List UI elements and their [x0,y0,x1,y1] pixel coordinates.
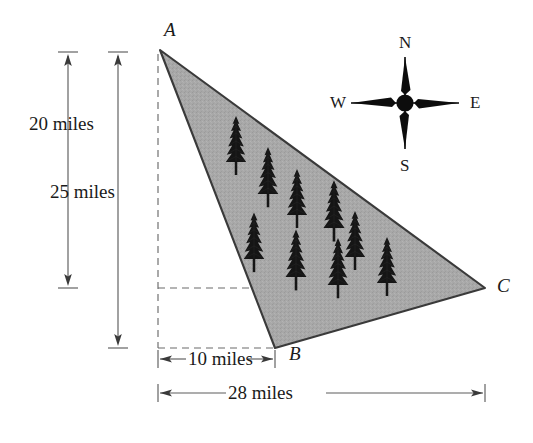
dimension-28-miles [158,384,485,402]
vertex-label-b: B [289,344,301,363]
vertex-label-a: A [164,20,176,39]
dimension-label-25-miles: 25 miles [50,182,115,201]
compass-label-north: N [399,34,411,51]
dimension-label-10-miles: 10 miles [188,349,253,368]
compass-label-south: S [400,157,409,174]
vertex-label-c: C [497,276,510,295]
forest-survey-diagram [0,0,533,443]
forest-plot-triangle [160,50,485,348]
compass-label-west: W [330,94,346,111]
dimension-20-miles [58,52,78,288]
compass-rose-icon [351,57,459,149]
compass-label-east: E [470,94,480,111]
dimension-label-20-miles: 20 miles [29,114,94,133]
dimension-label-28-miles: 28 miles [228,383,293,402]
